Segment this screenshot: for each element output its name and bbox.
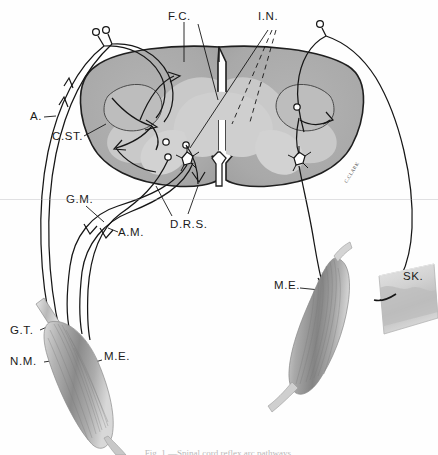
label-in: I.N. — [258, 10, 278, 22]
figure-caption: Fig. 1.—Spinal cord reflex arc pathways. — [0, 448, 438, 455]
diagram-canvas — [0, 0, 438, 455]
label-nm: N.M. — [10, 355, 37, 367]
label-me-right: M.E. — [274, 279, 300, 291]
label-drs: D.R.S. — [170, 218, 207, 230]
spinal-cord-cross-section — [80, 46, 363, 186]
label-sk: SK. — [403, 270, 423, 282]
receptor-body-1 — [93, 29, 100, 36]
efferent-fiber-extra — [88, 160, 168, 340]
internuncial-body-1 — [163, 139, 169, 145]
label-gt: G.T. — [10, 324, 34, 336]
label-me-left: M.E. — [104, 350, 130, 362]
dorsal-horn-loop-right — [276, 84, 334, 130]
tendon-right-upper — [334, 242, 352, 262]
label-fc: F.C. — [168, 10, 191, 22]
internuncial-body-2 — [165, 154, 171, 160]
muscle-belly-left — [44, 321, 113, 448]
label-cst: C.ST. — [52, 130, 83, 142]
muscle-right — [268, 242, 352, 412]
dorsal-ganglion-body-right — [294, 104, 300, 110]
scan-artifact-line — [0, 199, 438, 200]
arrow-gm — [84, 224, 97, 234]
leader-am — [108, 228, 118, 232]
gamma-motor-fiber — [67, 165, 187, 332]
label-am: A.M. — [118, 226, 144, 238]
receptor-stalk-1 — [98, 36, 104, 46]
receptor-body-2 — [103, 27, 110, 34]
figure-root: F.C. I.N. A. C.ST. G.M. A.M. D.R.S. G.T.… — [0, 0, 438, 455]
tendon-right-lower — [268, 382, 298, 412]
leader-drs-1 — [156, 186, 172, 216]
skin-receptor-body — [317, 21, 324, 28]
efferent-fiber-right — [299, 166, 324, 290]
leader-a — [44, 116, 56, 117]
muscle-left — [36, 298, 126, 455]
alpha-motor-fiber — [80, 163, 193, 334]
skin-receptor-stalk — [322, 28, 326, 36]
label-a: A. — [30, 110, 42, 122]
receptor-stalk-2 — [108, 34, 112, 44]
leader-drs-2 — [188, 186, 198, 214]
